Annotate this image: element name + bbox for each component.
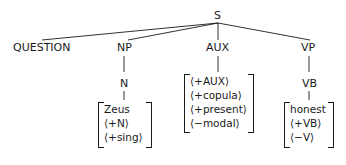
left-bracket xyxy=(98,102,104,148)
vp-feature-matrix: honest ⟨+VB⟩ ⟨−V⟩ xyxy=(284,102,334,148)
feature-row: ⟨+N⟩ xyxy=(98,116,152,130)
node-n: N xyxy=(120,78,128,90)
node-aux: AUX xyxy=(206,42,229,54)
feature-row: ⟨+present⟩ xyxy=(184,102,254,116)
node-vp: VP xyxy=(301,42,315,54)
right-bracket xyxy=(248,74,254,133)
feature-row: ⟨+copula⟩ xyxy=(184,88,254,102)
node-s: S xyxy=(214,10,221,22)
np-feature-matrix: Zeus ⟨+N⟩ ⟨+sing⟩ xyxy=(98,102,152,148)
feature-row: ⟨+sing⟩ xyxy=(98,130,152,144)
feature-row: Zeus xyxy=(98,102,152,116)
node-vb: VB xyxy=(302,78,317,90)
left-bracket xyxy=(184,74,190,133)
feature-row: honest xyxy=(284,102,334,116)
left-bracket xyxy=(284,102,290,148)
right-bracket xyxy=(328,102,334,148)
node-np: NP xyxy=(117,42,132,54)
aux-feature-matrix: ⟨+AUX⟩ ⟨+copula⟩ ⟨+present⟩ ⟨−modal⟩ xyxy=(184,74,254,133)
node-question: QUESTION xyxy=(13,42,71,54)
feature-row: ⟨−V⟩ xyxy=(284,130,334,144)
feature-row: ⟨+VB⟩ xyxy=(284,116,334,130)
feature-row: ⟨−modal⟩ xyxy=(184,116,254,130)
right-bracket xyxy=(146,102,152,148)
feature-row: ⟨+AUX⟩ xyxy=(184,74,254,88)
